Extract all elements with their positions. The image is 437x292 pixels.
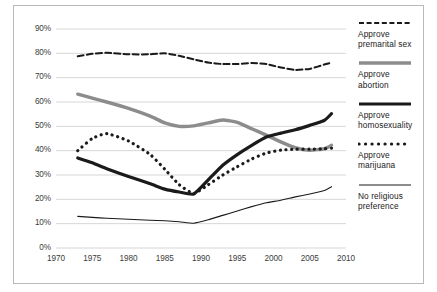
x-tick-label: 1980 (112, 254, 146, 263)
legend-label: Approve abortion (358, 69, 428, 89)
x-tick-label: 1995 (220, 254, 254, 263)
legend-label: Approve homosexuality (358, 110, 428, 130)
legend-entry[interactable]: No religious preference (358, 180, 428, 211)
series-line-approve-premarital-sex (78, 53, 332, 70)
chart-legend: Approve premarital sexApprove abortionAp… (358, 18, 428, 220)
legend-label: No religious preference (358, 191, 428, 211)
data-series-layer (78, 53, 332, 223)
y-tick-label: 90% (17, 24, 51, 33)
legend-label: Approve marijuana (358, 150, 428, 170)
x-tick-label: 2010 (329, 254, 363, 263)
chart-figure: 0%10%20%30%40%50%60%70%80%90% 1970197519… (0, 0, 437, 292)
thin-line-swatch (358, 180, 412, 190)
y-tick-label: 0% (17, 243, 51, 252)
series-line-approve-abortion (78, 94, 332, 150)
y-tick-label: 20% (17, 194, 51, 203)
legend-entry[interactable]: Approve marijuana (358, 139, 428, 170)
legend-entry[interactable]: Approve abortion (358, 58, 428, 89)
gray-thick-line-swatch (358, 58, 412, 68)
black-thick-line-swatch (358, 99, 412, 109)
y-tick-label: 10% (17, 218, 51, 227)
x-tick-label: 1975 (75, 254, 109, 263)
legend-entry[interactable]: Approve premarital sex (358, 18, 428, 49)
y-tick-label: 30% (17, 170, 51, 179)
x-tick-label: 1985 (148, 254, 182, 263)
y-tick-label: 40% (17, 145, 51, 154)
legend-entry[interactable]: Approve homosexuality (358, 99, 428, 130)
dotted-line-swatch (358, 139, 412, 149)
y-tick-label: 60% (17, 97, 51, 106)
x-tick-label: 1990 (184, 254, 218, 263)
dashed-line-swatch (358, 18, 412, 28)
x-tick-label: 1970 (39, 254, 73, 263)
x-tick-label: 2005 (293, 254, 327, 263)
x-tick-label: 2000 (257, 254, 291, 263)
series-line-no-religious-preference (78, 187, 332, 224)
y-tick-label: 50% (17, 121, 51, 130)
y-tick-label: 70% (17, 72, 51, 81)
y-tick-label: 80% (17, 48, 51, 57)
legend-label: Approve premarital sex (358, 29, 428, 49)
series-line-approve-homosexuality (78, 114, 332, 195)
